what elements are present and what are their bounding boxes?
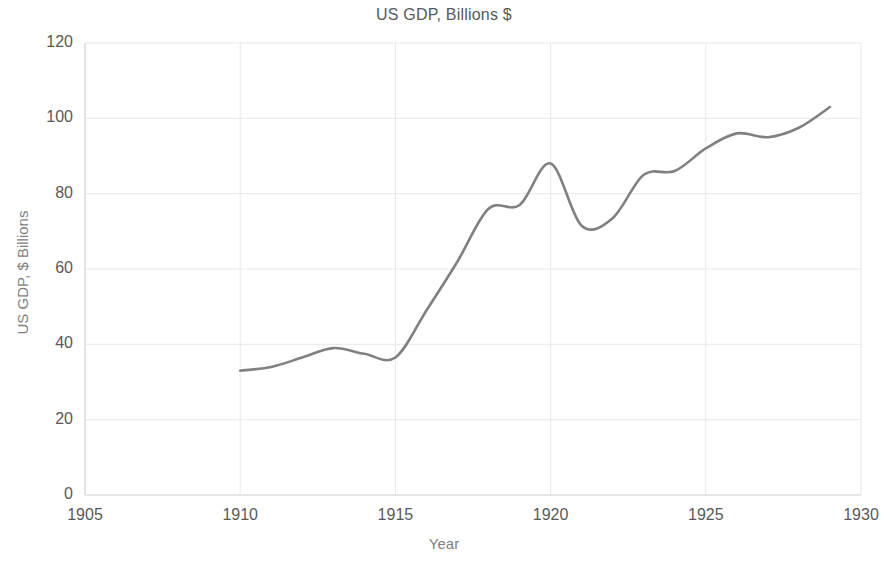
x-axis-tick-label: 1910 — [200, 506, 280, 524]
x-axis-tick-label: 1915 — [355, 506, 435, 524]
chart-container: US GDP, Billions $ 120100806040200 19051… — [0, 0, 888, 573]
x-axis-tick-label: 1925 — [666, 506, 746, 524]
data-series-line — [240, 107, 830, 371]
x-axis-tick-label: 1905 — [45, 506, 125, 524]
x-axis-title: Year — [0, 535, 888, 552]
plot-area — [0, 0, 888, 573]
y-axis-tick-label: 120 — [13, 33, 73, 51]
y-axis-tick-label: 100 — [13, 108, 73, 126]
y-axis-title: US GDP, $ Billions — [14, 163, 31, 383]
y-axis-tick-label: 20 — [13, 410, 73, 428]
gridlines — [85, 43, 861, 495]
x-axis-tick-label: 1930 — [821, 506, 888, 524]
y-axis-tick-label: 0 — [13, 485, 73, 503]
x-axis-tick-label: 1920 — [511, 506, 591, 524]
